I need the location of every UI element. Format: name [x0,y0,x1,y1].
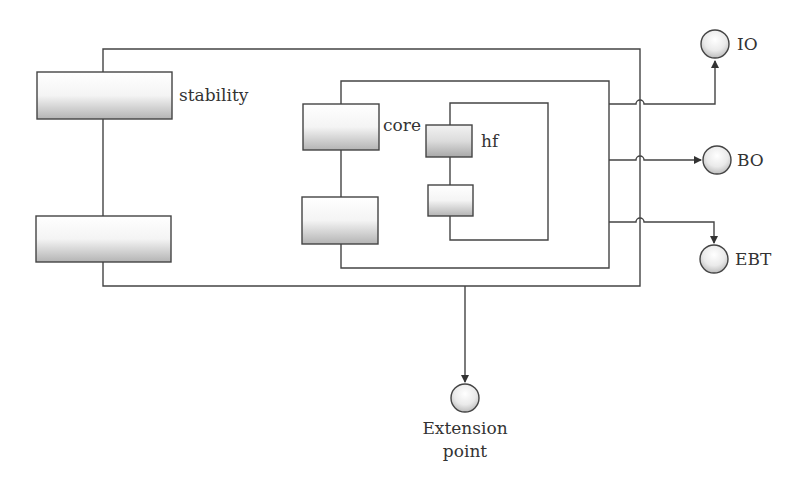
stability-label: stability [179,85,249,105]
io-connector [609,61,715,104]
extension-point-port-icon[interactable] [451,384,479,412]
hf-component-top[interactable] [426,125,472,157]
stability-component-top[interactable] [37,72,172,119]
hf-label: hf [481,131,500,151]
core-component-top[interactable] [303,104,379,150]
io-port-icon[interactable] [701,30,729,58]
bo-label: BO [737,150,764,170]
ebt-connector [609,218,714,243]
hf-frame [450,103,548,240]
core-label: core [383,115,421,135]
hf-component-bottom[interactable] [428,185,473,216]
extension-label-line1: Extension [422,418,507,438]
core-component-bottom[interactable] [302,197,378,244]
extension-label-line2: point [443,441,488,461]
bo-connector [609,156,701,160]
io-label: IO [737,34,758,54]
bo-port-icon[interactable] [703,146,731,174]
stability-component-bottom[interactable] [36,216,171,262]
architecture-diagram: stability core hf IO BO EBT Extension po… [0,0,801,477]
ebt-label: EBT [735,249,772,269]
ebt-port-icon[interactable] [700,245,728,273]
